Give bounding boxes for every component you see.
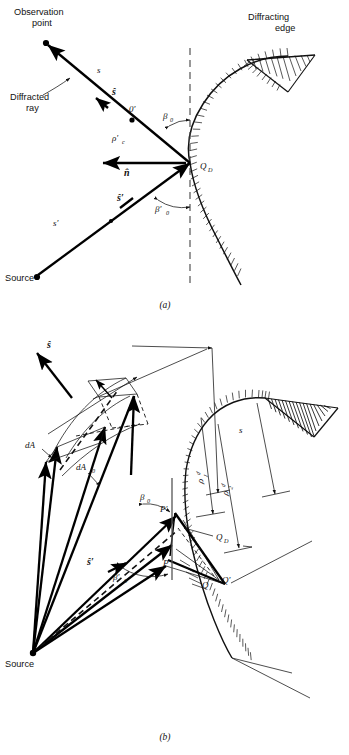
caption-a: (a)	[159, 300, 170, 311]
diffracting-wedge-b	[262, 390, 338, 437]
p-prime-label-b: P′	[159, 504, 168, 514]
n-hat-label-a: n̂	[124, 167, 130, 178]
s-hat-label-b: ŝ	[46, 339, 52, 350]
surface-hatching-b	[182, 390, 266, 660]
beta0-label-a: β 0	[162, 111, 174, 123]
beta0-label-b: β 0	[139, 492, 151, 504]
observation-point-label-line1: Observation	[14, 7, 64, 17]
rho1-symbol: ρ	[195, 477, 206, 486]
diffracted-ray-label-line1: Diffracted	[10, 92, 49, 102]
point-o-prime-dot-a	[129, 117, 134, 122]
qd-subscript-b: D	[223, 537, 229, 544]
rho-c-prime-label-a: ρ′ c	[111, 133, 125, 145]
curved-surface-b	[185, 398, 265, 658]
beta0-subscript-b: 0	[147, 497, 151, 504]
incident-ray-lower-b	[33, 566, 166, 653]
diffracting-edge-label-line1: Diffracting	[248, 12, 289, 22]
distance-s-label-b: s	[239, 425, 243, 435]
beta0-symbol-b: β	[139, 492, 145, 502]
distance-s-prime-label-a: s′	[53, 218, 60, 228]
surface-tail-lower-b	[232, 658, 310, 698]
s-hat-prime-label-b: ŝ′	[86, 556, 94, 567]
source-label-a: Source	[5, 273, 34, 283]
panel-b: ŝ dA dA 0 β 0 β′ 0 ŝ′ ρ 1 d ρ 2 d s P′ P…	[5, 339, 338, 698]
dA0-subscript: 0	[92, 467, 96, 474]
beta0-symbol: β	[162, 111, 168, 121]
beta0-prime-subscript: 0	[166, 209, 170, 216]
incident-ray-dashed-b	[33, 530, 178, 653]
source-point-dot-b	[30, 650, 36, 656]
beta0-prime-symbol: β′	[154, 204, 162, 214]
observation-point-label-line2: point	[32, 18, 52, 28]
dA0-symbol: dA	[76, 462, 87, 472]
qd-symbol: Q	[200, 161, 207, 171]
surface-tail-upper-b	[232, 658, 292, 673]
qd-label-b: Q D	[216, 532, 229, 544]
rho1-label-b: ρ 1 d	[192, 470, 210, 486]
diffracted-ray-label-line2: ray	[26, 103, 39, 113]
dA-leader-b	[42, 449, 52, 458]
distance-s-label-a: s	[97, 65, 101, 75]
dA0-leader-b	[88, 473, 100, 486]
caption-b: (b)	[159, 732, 170, 743]
angle-arc-beta0prime-a	[158, 200, 190, 208]
rho2-subscript: 2	[227, 485, 235, 490]
tick-s-prime-a	[109, 219, 113, 223]
s-hat-prime-label-a: ŝ′	[116, 192, 124, 203]
diffracting-edge-label-line2: edge	[275, 23, 295, 33]
point-o-prime-label-a: 0′	[129, 104, 137, 114]
p-label-b: P	[162, 558, 169, 568]
qd-subscript: D	[207, 166, 213, 173]
source-label-b: Source	[5, 659, 34, 669]
diffracted-tube-b	[166, 513, 225, 584]
unit-vector-marks-a	[96, 98, 133, 208]
beta0-prime-symbol-b: β′	[112, 572, 120, 582]
rho-c-prime-symbol: ρ′	[111, 133, 119, 143]
q-label-b: Q	[202, 580, 209, 590]
panel-a: Observation point Diffracted ray Diffrac…	[5, 7, 315, 287]
qd-label-a: Q D	[200, 161, 213, 173]
beta0-subscript: 0	[170, 116, 174, 123]
dA-label-b: dA	[25, 440, 36, 450]
observation-point-dot-a	[43, 40, 49, 46]
qd-symbol-b: Q	[216, 532, 223, 542]
q-prime-label-b: Q′	[222, 575, 231, 585]
rho-c-prime-subscript: c	[122, 138, 125, 145]
s-hat-arrow-b	[37, 353, 72, 398]
rho2-label-b: ρ 2 d	[217, 482, 235, 498]
incident-ray-a	[38, 163, 190, 275]
beta0-prime-label-a: β′ 0	[154, 204, 170, 216]
figure-diffraction-geometry: Observation point Diffracted ray Diffrac…	[0, 0, 349, 755]
tube-top-face-b	[88, 378, 137, 397]
diffracting-edge-wedge-a	[244, 55, 315, 92]
dimension-lines-b	[48, 346, 312, 583]
s-hat-label-a: ŝ	[111, 86, 117, 97]
diffracted-ray-a	[48, 45, 190, 163]
rho2-superscript: d	[219, 482, 227, 488]
rho1-superscript: d	[194, 470, 202, 476]
source-point-dot-a	[34, 274, 40, 280]
tube-long-arrow-b	[131, 396, 134, 475]
